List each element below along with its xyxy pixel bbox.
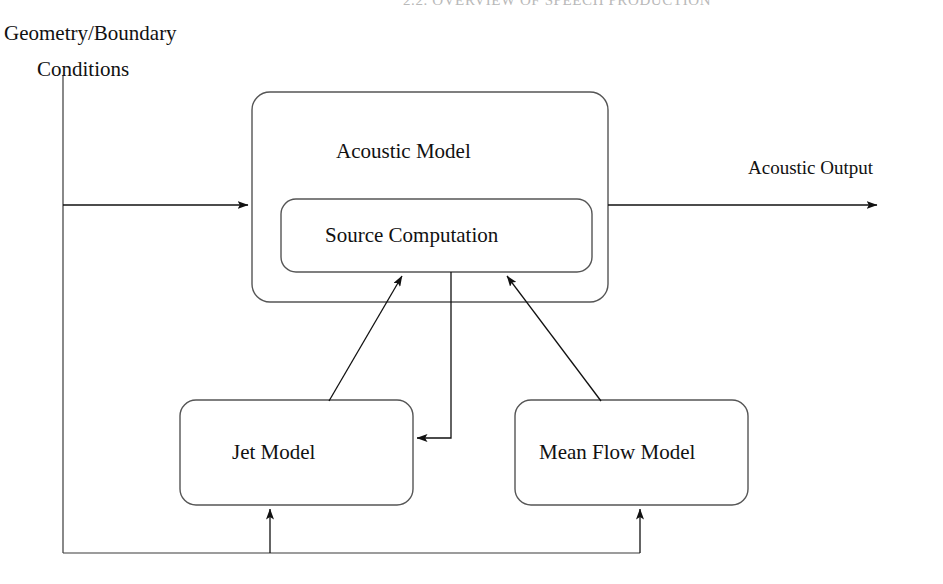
- block-label-acoustic-model: Acoustic Model: [336, 139, 471, 164]
- block-label-mean-flow-model: Mean Flow Model: [539, 440, 695, 465]
- output-label-acoustic-output: Acoustic Output: [748, 157, 873, 179]
- block-acoustic-model-shape: [252, 92, 608, 302]
- input-label-geometry-boundary-line2: Conditions: [37, 57, 129, 82]
- input-label-geometry-boundary-line1: Geometry/Boundary: [4, 21, 177, 46]
- connector-source-computation-to-jet-model: [417, 272, 451, 438]
- diagram-canvas: [0, 0, 943, 584]
- block-label-jet-model: Jet Model: [232, 440, 315, 465]
- connector-jet-model-to-source-computation: [329, 276, 402, 401]
- figure-root: 2.2. OVERVIEW OF SPEECH PRODUCTION: [0, 0, 943, 584]
- connector-mean-flow-model-to-source-computation: [507, 276, 601, 401]
- block-label-source-computation: Source Computation: [325, 223, 498, 248]
